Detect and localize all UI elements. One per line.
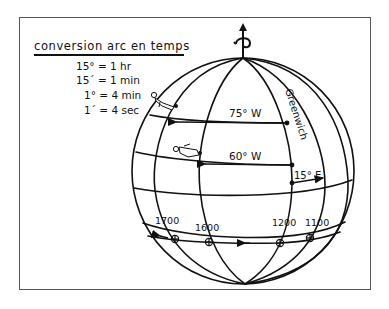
time-label-1200: 1200 bbox=[272, 217, 296, 228]
time-label-1700: 1700 bbox=[155, 215, 179, 226]
time-marker-1600 bbox=[205, 238, 213, 246]
label-75w: 75° W bbox=[229, 107, 262, 119]
figure-dot-upper bbox=[174, 104, 178, 108]
globe-diagram: 75° W 60° W 15° E Greenwich 1700 1600 12… bbox=[0, 0, 389, 309]
time-marker-1200 bbox=[276, 239, 284, 247]
arc-60w-arrow bbox=[205, 164, 292, 165]
time-label-1600: 1600 bbox=[195, 222, 219, 233]
greenwich-dot-75 bbox=[285, 121, 290, 126]
time-marker-1100 bbox=[306, 234, 314, 242]
parallel-equator bbox=[134, 180, 352, 195]
parallel bbox=[136, 152, 292, 165]
time-marker-1700 bbox=[171, 235, 179, 243]
arc-75w-arrow bbox=[176, 122, 287, 123]
label-15e: 15° E bbox=[294, 170, 321, 181]
meridian bbox=[199, 58, 245, 284]
greenwich-dot-15e bbox=[290, 181, 295, 186]
time-label-1100: 1100 bbox=[305, 217, 329, 228]
greenwich-dot-60 bbox=[290, 163, 295, 168]
lying-person-icon bbox=[173, 144, 199, 157]
rotation-axis-arrow-icon bbox=[234, 23, 250, 58]
label-60w: 60° W bbox=[229, 150, 262, 162]
